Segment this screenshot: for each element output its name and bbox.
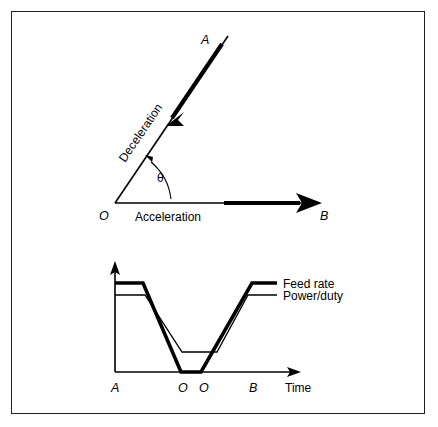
label-deceleration: Deceleration (116, 101, 165, 165)
figure-canvas: A B O θ Acceleration Deceleration Feed r… (0, 0, 438, 427)
label-origin: O (99, 209, 109, 223)
legend-label-power-duty: Power/duty (283, 289, 343, 303)
label-point-b: B (320, 209, 328, 223)
label-point-a: A (200, 33, 209, 47)
label-acceleration: Acceleration (135, 210, 201, 224)
profile-chart: Feed rate Power/duty A O O B Time (110, 261, 343, 395)
chart-xtick-b: B (249, 381, 257, 395)
vector-diagram: A B O θ Acceleration Deceleration (99, 33, 328, 224)
chart-xtick-a: A (110, 381, 119, 395)
chart-axis-time-label: Time (285, 381, 312, 395)
chart-xtick-o2: O (199, 381, 209, 395)
angle-arc-arrowhead (145, 155, 157, 167)
chart-xtick-o1: O (178, 381, 188, 395)
series-feed-rate (115, 283, 277, 372)
label-theta: θ (157, 171, 164, 185)
figure-page: A B O θ Acceleration Deceleration Feed r… (0, 0, 438, 427)
deceleration-vector-arrow (172, 44, 222, 118)
series-power-duty (115, 295, 277, 352)
